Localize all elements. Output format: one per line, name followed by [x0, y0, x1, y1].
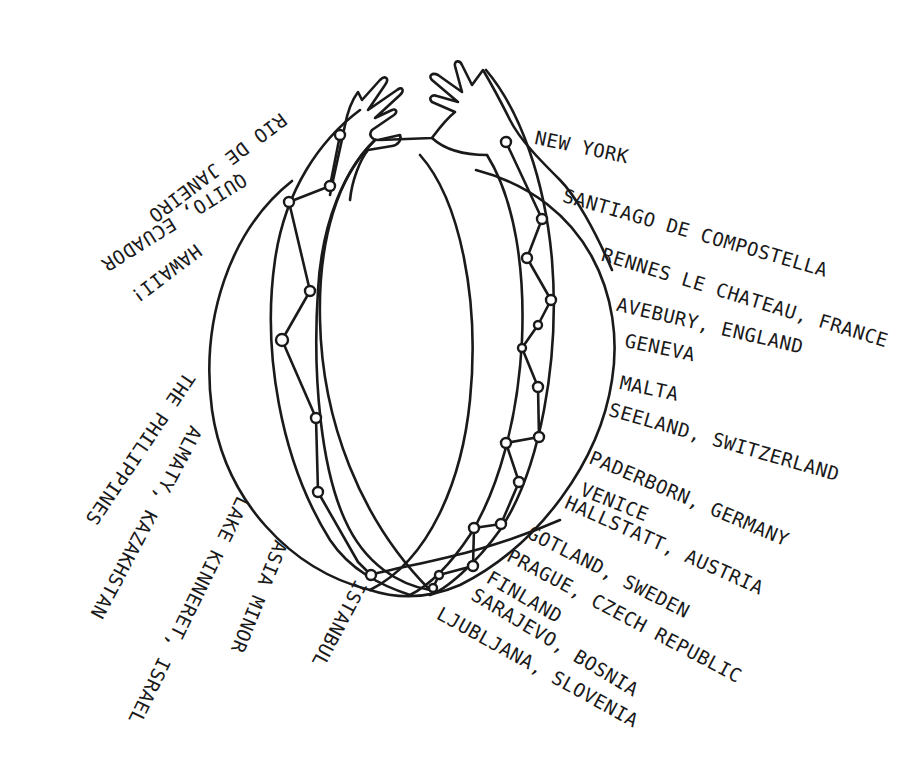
- node: [305, 286, 315, 296]
- node: [335, 130, 345, 140]
- right-wrist: [432, 138, 487, 155]
- node: [522, 253, 532, 263]
- node: [468, 561, 478, 571]
- node: [533, 382, 543, 392]
- node: [276, 334, 288, 346]
- node: [435, 571, 443, 579]
- node: [496, 519, 506, 529]
- node: [537, 214, 547, 224]
- node: [518, 344, 526, 352]
- node: [311, 413, 321, 423]
- node: [325, 181, 335, 191]
- right-arm-inner: [410, 155, 523, 595]
- node: [429, 584, 437, 592]
- right-hand: [380, 61, 612, 270]
- node: [366, 570, 376, 580]
- node: [469, 523, 479, 533]
- drawing-canvas: [0, 0, 911, 759]
- node: [514, 477, 524, 487]
- inner-meridian-right: [370, 155, 473, 590]
- node-chain-left: [276, 130, 376, 580]
- node: [546, 295, 556, 305]
- node: [534, 321, 542, 329]
- node: [534, 432, 544, 442]
- node: [284, 197, 294, 207]
- globe-hands-diagram: New York Santiago de Compostella Rennes …: [0, 0, 911, 759]
- node: [501, 137, 511, 147]
- globe-outline-right: [370, 170, 615, 596]
- node: [501, 438, 511, 448]
- node: [313, 487, 323, 497]
